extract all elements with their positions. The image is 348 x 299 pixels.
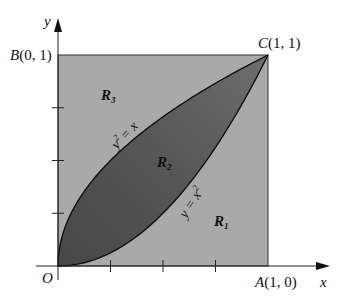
point-b-label: B(0, 1): [10, 47, 52, 64]
svg-text:C(1, 1): C(1, 1): [258, 35, 301, 52]
point-a-label: A(1, 0): [254, 274, 297, 291]
x-axis-arrow-icon: [316, 262, 330, 270]
y-axis-arrow-icon: [54, 18, 62, 32]
x-axis-label: x: [319, 274, 327, 290]
svg-text:B(0, 1): B(0, 1): [10, 47, 52, 64]
origin-label: O: [42, 270, 53, 286]
point-c-label: C(1, 1): [258, 35, 301, 52]
y-axis-label: y: [42, 13, 51, 29]
region-diagram: y x O B(0, 1) C(1, 1) A(1, 0) R3 R2 R1: [0, 0, 348, 299]
svg-text:A(1, 0): A(1, 0): [254, 274, 297, 291]
